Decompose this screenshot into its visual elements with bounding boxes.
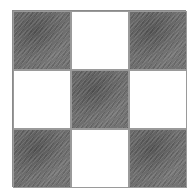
grid-cell-shaded: [129, 129, 187, 188]
checkerboard-grid: [12, 10, 186, 187]
grid-cell-blank: [71, 11, 129, 70]
grid-cell-blank: [129, 70, 187, 129]
grid-cell-shaded: [13, 129, 71, 188]
grid-cell-blank: [13, 70, 71, 129]
grid-cell-blank: [71, 129, 129, 188]
grid-cell-shaded: [129, 11, 187, 70]
grid-cell-shaded: [71, 70, 129, 129]
grid-cell-shaded: [13, 11, 71, 70]
